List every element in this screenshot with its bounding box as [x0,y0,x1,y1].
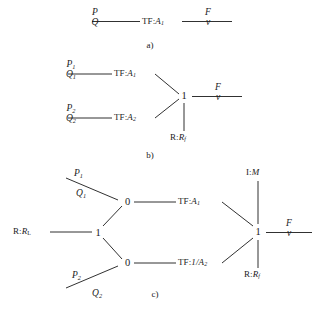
panel-b-resistance-friction: R:Rf [170,133,186,143]
tf-value: 1/A [191,257,204,267]
bond-c-tf-top-junction [222,202,253,226]
panel-c-flow-1: Q1 [76,188,86,199]
panel-c-one-junction-left: 1 [93,227,103,238]
panel-a-port-left: P Q [84,8,106,28]
r-subscript: f [258,273,260,279]
bond-c-junction-zero-bottom [103,238,122,259]
panel-b-one-junction: 1 [179,90,189,101]
bond-b-tf2-junction [155,99,179,118]
panel-b-port-2: P2 Q2 [58,104,84,124]
flow-label: v [197,18,219,28]
panel-c-port-out: F v [278,219,300,239]
tf-subscript: 1 [197,200,200,206]
panel-b-caption: b) [135,150,165,160]
tf-subscript: 1 [161,20,164,26]
bond-b-tf1-junction [155,74,179,94]
panel-c-transformer-top: TF:A1 [178,197,200,207]
flow-label: Q [84,18,106,28]
panel-b-port-1: P1 Q1 [58,60,84,80]
flow-label: v [207,93,229,103]
panel-c-one-junction-right: 1 [253,226,263,237]
panel-c-zero-junction-top: 0 [122,196,133,207]
panel-c-caption: c) [140,289,170,299]
panel-b-port-out: F v [207,83,229,103]
tf-prefix: TF [114,112,125,122]
panel-a-caption: a) [135,40,165,50]
bond-graph-figure: P Q TF:A1 F v a) P1 Q1 TF:A1 P2 Q2 TF:A2… [0,0,316,310]
panel-b-transformer-2: TF:A2 [114,113,136,123]
i-value: M [252,167,260,177]
bond-c-tf-bottom-junction [222,238,253,263]
panel-c-resistance-friction: R:Rf [244,270,260,280]
panel-c-transformer-bottom: TF:1/A2 [178,258,207,268]
panel-c-zero-junction-bottom: 0 [122,257,133,268]
panel-c-inertia-mass: I:M [246,168,259,177]
tf-prefix: TF [114,68,125,78]
tf-prefix: TF [142,16,153,26]
panel-c-flow-2: Q2 [92,288,102,299]
panel-c-resistance-load: R:RL [13,227,31,237]
bond-c-junction-zero-top [103,206,122,226]
tf-subscript: 2 [204,261,207,267]
tf-subscript: 1 [133,72,136,78]
panel-c-effort-2: P2 [72,270,81,281]
bond-c-p1q1 [66,178,118,200]
tf-prefix: TF [178,257,189,267]
flow-label: v [278,229,300,239]
tf-subscript: 2 [133,116,136,122]
flow-label: Q2 [58,114,84,124]
r-subscript: L [27,230,31,236]
panel-c-effort-1: P1 [74,168,83,179]
panel-a-transformer: TF:A1 [142,17,164,27]
panel-a-port-right: F v [197,8,219,28]
r-subscript: f [184,136,186,142]
panel-b-transformer-1: TF:A1 [114,69,136,79]
tf-prefix: TF [178,196,189,206]
flow-label: Q1 [58,70,84,80]
